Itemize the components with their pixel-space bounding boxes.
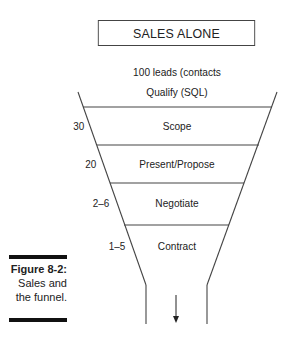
stage-negotiate-label: Negotiate xyxy=(155,197,198,209)
stage-scope-count: 30 xyxy=(73,120,84,132)
caption-line-1: Sales and xyxy=(11,276,67,290)
caption-line-2: the funnel. xyxy=(11,290,67,304)
stage-negotiate-count: 2–6 xyxy=(92,197,109,209)
stage-present-count: 20 xyxy=(85,158,96,170)
stage-contract-count: 1–5 xyxy=(108,240,125,252)
caption-bottom-rule xyxy=(9,318,67,322)
stage-present-label: Present/Propose xyxy=(139,158,214,170)
stage-scope-label: Scope xyxy=(163,120,192,132)
figure-number: Figure 8-2: xyxy=(11,262,67,276)
stage-contract-label: Contract xyxy=(158,240,196,252)
caption-top-rule xyxy=(9,255,67,259)
down-arrow-icon xyxy=(173,295,179,323)
figure-caption: Figure 8-2: Sales and the funnel. xyxy=(11,262,67,304)
